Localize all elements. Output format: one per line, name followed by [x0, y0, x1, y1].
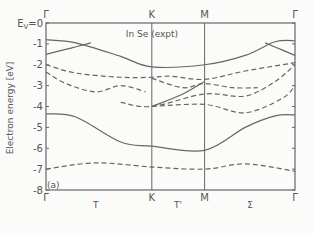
y-tick-label: -6	[33, 143, 43, 154]
y-tick-label: -3	[33, 80, 43, 91]
symmetry-point-top: Γ	[292, 9, 298, 20]
band-curve	[46, 114, 295, 151]
band-curve	[265, 43, 295, 56]
band-curve	[46, 63, 295, 80]
y-tick-label: -4	[33, 101, 43, 112]
band-curve	[46, 43, 91, 54]
segment-label: Σ	[247, 200, 253, 210]
y-tick-label: -2	[33, 59, 43, 70]
y-tick-label: -1	[33, 38, 43, 49]
y-tick-label: -5	[33, 122, 43, 133]
band-curve	[152, 86, 295, 113]
band-curves	[46, 40, 295, 172]
y-tick-label: -7	[33, 164, 43, 175]
band-curve	[152, 81, 205, 106]
symmetry-point-bottom: Γ	[43, 192, 49, 203]
band-curve	[46, 163, 295, 171]
band-curve	[121, 65, 295, 107]
band-curve	[46, 40, 295, 68]
symmetry-point-top: K	[149, 9, 156, 20]
symmetry-point-bottom: K	[149, 192, 156, 203]
segment-label: T	[92, 200, 99, 210]
panel-label: (a)	[47, 180, 60, 190]
y-axis-label: Electron energy [eV]	[5, 62, 15, 155]
band-structure-chart: ΓΓKKMMΓΓTT'ΣEV=0-1-2-3-4-5-6-7-8 In Se (…	[0, 0, 314, 233]
symmetry-point-bottom: M	[200, 192, 209, 203]
y-tick-label: EV=0	[17, 18, 43, 31]
y-tick-label: -8	[33, 185, 43, 196]
segment-label: T'	[173, 200, 182, 210]
symmetry-point-top: Γ	[43, 9, 49, 20]
symmetry-point-bottom: Γ	[292, 192, 298, 203]
chart-title: In Se (expt)	[126, 29, 178, 39]
symmetry-point-top: M	[200, 9, 209, 20]
